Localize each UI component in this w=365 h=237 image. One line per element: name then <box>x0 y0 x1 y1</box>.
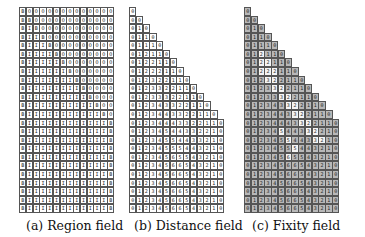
grid-row: BIIIIIIIIIIIIB <box>19 204 114 213</box>
grid-cell: 0 <box>332 170 339 179</box>
fixity-field-panel: 0000100110011100121100122110012221100123… <box>244 7 339 213</box>
grid-row: BIIIIIIIIIIIIB <box>19 119 114 128</box>
grid-row: 01234566543210 <box>244 204 339 213</box>
grid-cell: 0 <box>217 196 224 205</box>
grid-cell: 0 <box>285 58 292 67</box>
caption-fixity-field: (c) Fixity field <box>252 218 340 233</box>
grid-row: 01234554433210 <box>244 136 339 145</box>
grid-cell: B <box>107 170 114 179</box>
grid-row: 0110 <box>244 33 339 42</box>
grid-cell: 0 <box>332 179 339 188</box>
grid-row: 01110 <box>129 41 224 50</box>
grid-row: 01110 <box>244 41 339 50</box>
grid-row: 01234566543210 <box>244 161 339 170</box>
grid-row: 01222110 <box>244 67 339 76</box>
grid-row: 01234443322110 <box>244 119 339 128</box>
caption-region-field: (a) Region field <box>26 218 123 233</box>
grid-cell: 0 <box>271 41 278 50</box>
grid-cell: 0 <box>312 93 319 102</box>
grid-cell: B <box>107 127 114 136</box>
grid-row: 01234565543210 <box>244 153 339 162</box>
grid-row: 01234566543210 <box>129 187 224 196</box>
grid-cell: O <box>107 33 114 42</box>
caption-distance-field: (b) Distance field <box>134 218 243 233</box>
grid-cell: 0 <box>278 50 285 59</box>
grid-cell: 0 <box>217 136 224 145</box>
grid-row: 012322110 <box>129 76 224 85</box>
grid-cell: 0 <box>217 170 224 179</box>
grid-cell: 0 <box>190 84 197 93</box>
grid-row: 010 <box>129 24 224 33</box>
grid-row: BIIIIIIIIIIIIB <box>19 187 114 196</box>
grid-cell: B <box>107 136 114 145</box>
grid-row: BIIIIIIIIIIIIB <box>19 136 114 145</box>
grid-cell: B <box>107 187 114 196</box>
grid-cell: 0 <box>332 196 339 205</box>
grid-row: BIIIIIIIIIIIBO <box>19 110 114 119</box>
grid-cell: 0 <box>332 144 339 153</box>
grid-cell: 0 <box>305 84 312 93</box>
grid-row: BIIIBOOOOOOOOO <box>19 41 114 50</box>
grid-row: 01234566543210 <box>129 196 224 205</box>
grid-row: BIIIIIIIIIBOOO <box>19 93 114 102</box>
grid-cell: B <box>107 161 114 170</box>
grid-row: BIIBOOOOOOOOOO <box>19 33 114 42</box>
grid-row: 01234566543210 <box>244 187 339 196</box>
grid-cell: O <box>107 16 114 25</box>
grid-cell: B <box>107 179 114 188</box>
grid-row: 00 <box>244 16 339 25</box>
grid-cell: 0 <box>183 76 190 85</box>
grid-cell: 0 <box>325 110 332 119</box>
grid-cell: 0 <box>170 58 177 67</box>
grid-row: 01233322110 <box>244 93 339 102</box>
grid-cell: 0 <box>217 119 224 128</box>
grid-row: BBOOOOOOOOOOOO <box>19 16 114 25</box>
grid-cell: 0 <box>332 204 339 213</box>
grid-cell: B <box>107 153 114 162</box>
grid-cell: O <box>107 84 114 93</box>
grid-cell: 0 <box>217 144 224 153</box>
grid-cell: O <box>107 24 114 33</box>
grid-row: BIIIIIIIIBOOOO <box>19 84 114 93</box>
grid-row: BIIIIIIIIIIIIB <box>19 127 114 136</box>
grid-row: 012322110 <box>244 76 339 85</box>
grid-cell: 0 <box>318 101 325 110</box>
grid-cell: O <box>107 58 114 67</box>
grid-cell: B <box>107 119 114 128</box>
grid-row: 01234566543210 <box>129 204 224 213</box>
grid-cell: 0 <box>217 153 224 162</box>
grid-row: BIIIIIIIIIIBOO <box>19 101 114 110</box>
grid-cell: B <box>107 204 114 213</box>
grid-row: 012343322110 <box>129 101 224 110</box>
grid-row: 01234566543210 <box>244 179 339 188</box>
grid-cell: 0 <box>332 161 339 170</box>
fixity-field-grid: 0000100110011100121100122110012221100123… <box>244 7 339 213</box>
grid-cell: O <box>107 50 114 59</box>
grid-row: 0 <box>129 7 224 16</box>
grid-row: 0123322110 <box>129 84 224 93</box>
grid-row: 01234566543210 <box>244 170 339 179</box>
grid-row: 01234566543210 <box>129 170 224 179</box>
grid-cell: 0 <box>217 179 224 188</box>
grid-cell: 0 <box>129 7 136 16</box>
grid-cell: O <box>107 76 114 85</box>
grid-cell: O <box>107 110 114 119</box>
grid-cell: B <box>107 196 114 205</box>
grid-cell: 0 <box>217 187 224 196</box>
grid-row: 01234565543210 <box>129 153 224 162</box>
grid-cell: 0 <box>210 110 217 119</box>
grid-cell: 0 <box>163 50 170 59</box>
grid-row: 0122110 <box>129 58 224 67</box>
grid-row: BOOOOOOOOOOOOO <box>19 7 114 16</box>
grid-cell: 0 <box>332 119 339 128</box>
grid-cell: 0 <box>258 24 265 33</box>
grid-cell: 0 <box>217 127 224 136</box>
grid-row: 012110 <box>129 50 224 59</box>
grid-row: 01234566543210 <box>129 161 224 170</box>
grid-row: BIIIIIIIIIIIIB <box>19 153 114 162</box>
grid-cell: 0 <box>197 93 204 102</box>
grid-row: 0122110 <box>244 58 339 67</box>
grid-cell: O <box>107 67 114 76</box>
grid-cell: 0 <box>136 16 143 25</box>
grid-row: 010 <box>244 24 339 33</box>
